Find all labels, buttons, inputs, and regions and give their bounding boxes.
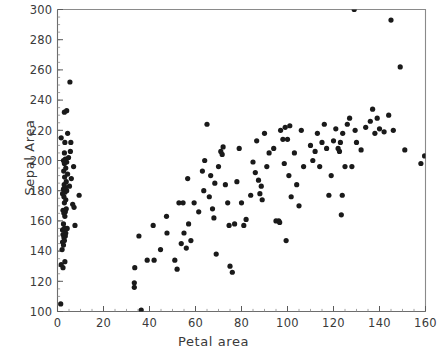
svg-text:100: 100: [276, 316, 299, 330]
svg-text:140: 140: [368, 316, 391, 330]
svg-text:300: 300: [30, 3, 53, 17]
x-axis-label: Petal area: [178, 334, 249, 349]
svg-text:160: 160: [414, 316, 437, 330]
svg-text:20: 20: [96, 316, 111, 330]
plot-canvas: 0204060801001201401601001201401601802002…: [0, 0, 438, 357]
y-axis-label: Sepal Area: [22, 103, 37, 213]
svg-text:40: 40: [142, 316, 157, 330]
svg-text:280: 280: [30, 33, 53, 47]
svg-text:160: 160: [30, 214, 53, 228]
svg-text:260: 260: [30, 63, 53, 77]
svg-text:100: 100: [30, 305, 53, 319]
svg-text:120: 120: [30, 275, 53, 289]
svg-text:0: 0: [54, 316, 62, 330]
scatter-plot-figure: Sepal Area Petal area 020406080100120140…: [0, 0, 438, 357]
svg-text:140: 140: [30, 244, 53, 258]
svg-text:60: 60: [188, 316, 203, 330]
svg-text:120: 120: [322, 316, 345, 330]
svg-text:80: 80: [234, 316, 249, 330]
